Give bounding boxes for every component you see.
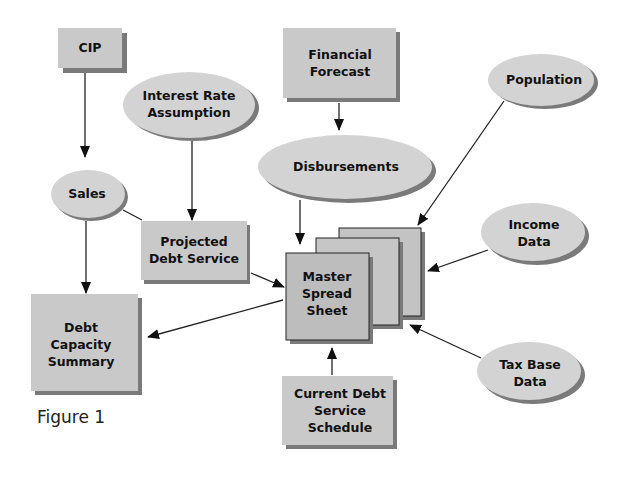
node-cip-label: CIP xyxy=(79,40,102,55)
node-interest-label-1: Interest Rate xyxy=(143,88,236,103)
node-disbursements-label: Disbursements xyxy=(293,159,399,174)
node-master-label-2: Spread xyxy=(302,286,352,301)
node-population: Population xyxy=(488,54,598,109)
node-income-label-1: Income xyxy=(508,217,559,232)
node-income-data: Income Data xyxy=(481,203,589,265)
node-taxbase-label-1: Tax Base xyxy=(499,357,561,372)
node-master-label-1: Master xyxy=(303,269,353,284)
node-interest-rate-assumption: Interest Rate Assumption xyxy=(123,72,259,141)
node-tax-base-data: Tax Base Data xyxy=(477,342,585,404)
node-interest-label-2: Assumption xyxy=(147,105,230,120)
node-forecast-label-2: Forecast xyxy=(310,64,371,79)
node-current-label-2: Service xyxy=(314,403,366,418)
edge-sales-to-projected xyxy=(123,210,142,220)
node-disbursements: Disbursements xyxy=(258,135,436,203)
node-income-label-2: Data xyxy=(517,234,550,249)
node-current-debt-service-schedule: Current Debt Service Schedule xyxy=(282,376,397,449)
node-debtcap-label-3: Summary xyxy=(48,354,115,369)
flow-diagram: CIP Interest Rate Assumption Financial F… xyxy=(0,0,629,478)
edge-taxbase-to-master xyxy=(410,325,481,358)
node-projected-label-2: Debt Service xyxy=(149,251,239,266)
node-cip: CIP xyxy=(58,28,127,73)
node-taxbase-label-2: Data xyxy=(513,374,546,389)
node-master-label-3: Sheet xyxy=(307,303,348,318)
node-debtcap-label-1: Debt xyxy=(64,320,98,335)
node-master-spread-sheet: Master Spread Sheet xyxy=(286,228,425,344)
node-population-label: Population xyxy=(506,72,582,87)
node-projected-debt-service: Projected Debt Service xyxy=(141,221,250,284)
node-current-label-1: Current Debt xyxy=(294,386,386,401)
node-projected-label-1: Projected xyxy=(160,234,228,249)
node-sales: Sales xyxy=(51,170,128,221)
node-debtcap-label-2: Capacity xyxy=(51,337,112,352)
edge-income-to-master xyxy=(428,250,488,271)
node-sales-label: Sales xyxy=(68,186,106,201)
node-forecast-label-1: Financial xyxy=(308,47,371,62)
node-debt-capacity-summary: Debt Capacity Summary xyxy=(31,294,142,395)
figure-caption: Figure 1 xyxy=(37,407,105,427)
node-financial-forecast: Financial Forecast xyxy=(283,28,400,102)
edge-projected-to-master xyxy=(251,273,284,287)
edge-master-to-debtcapacity xyxy=(148,300,283,337)
node-current-label-3: Schedule xyxy=(308,420,372,435)
